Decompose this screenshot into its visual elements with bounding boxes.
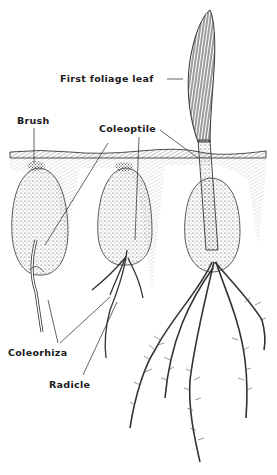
seed-stage-1 (12, 161, 68, 332)
label-first-foliage-leaf: First foliage leaf (60, 74, 154, 84)
seedling-roots (130, 262, 265, 462)
first-foliage-leaf (188, 10, 215, 142)
label-coleorhiza: Coleorhiza (8, 348, 67, 358)
seed-stage-2 (92, 162, 152, 358)
leader-coleorhiza-2 (60, 297, 110, 343)
label-brush: Brush (17, 116, 50, 126)
label-radicle: Radicle (49, 380, 90, 390)
brush-tuft (115, 162, 133, 172)
leader-coleorhiza-1 (48, 300, 58, 343)
leader-radicle (83, 302, 117, 375)
brush-tuft (27, 161, 45, 171)
label-coleoptile: Coleoptile (99, 124, 156, 134)
illustration (0, 0, 277, 475)
germination-diagram: First foliage leaf Brush Coleoptile Cole… (0, 0, 277, 475)
